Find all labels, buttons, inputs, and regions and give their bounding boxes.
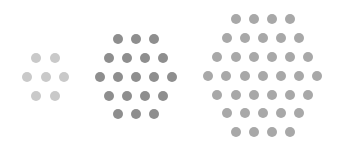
- dot: [258, 108, 268, 118]
- dot: [203, 71, 213, 81]
- dot: [285, 90, 295, 100]
- dot: [267, 127, 277, 137]
- dot: [258, 71, 268, 81]
- dot: [249, 127, 259, 137]
- dot: [249, 52, 259, 62]
- dot: [303, 52, 313, 62]
- dot: [231, 14, 241, 24]
- dot: [231, 127, 241, 137]
- dot: [294, 108, 304, 118]
- dot: [240, 33, 250, 43]
- dot: [276, 33, 286, 43]
- dot: [267, 14, 277, 24]
- dot: [249, 14, 259, 24]
- large-hexagon-cluster: [0, 0, 343, 148]
- dot: [303, 90, 313, 100]
- dot: [240, 108, 250, 118]
- dot: [294, 71, 304, 81]
- dot: [258, 33, 268, 43]
- dot: [231, 52, 241, 62]
- dot: [212, 52, 222, 62]
- dot: [294, 33, 304, 43]
- dot: [276, 108, 286, 118]
- dot: [285, 52, 295, 62]
- dot: [221, 71, 231, 81]
- dot: [285, 14, 295, 24]
- dot: [212, 90, 222, 100]
- dot: [267, 52, 277, 62]
- dot: [222, 33, 232, 43]
- dot: [276, 71, 286, 81]
- dot: [312, 71, 322, 81]
- dot: [222, 108, 232, 118]
- dot: [240, 71, 250, 81]
- dot: [249, 90, 259, 100]
- dot: [267, 90, 277, 100]
- dot: [285, 127, 295, 137]
- dot: [231, 90, 241, 100]
